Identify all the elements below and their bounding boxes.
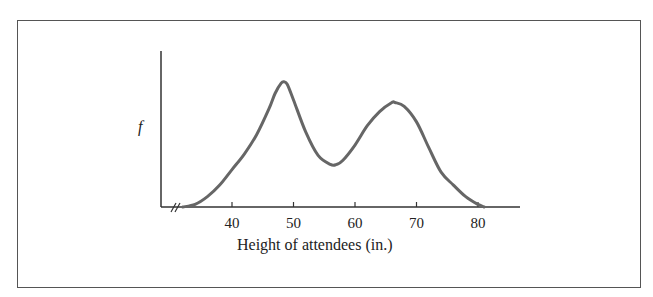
- x-tick-label: 70: [409, 215, 424, 232]
- x-tick-label: 60: [348, 215, 363, 232]
- y-axis-title: f: [138, 118, 142, 136]
- frequency-curve: [183, 82, 484, 207]
- x-tick-label: 40: [225, 215, 240, 232]
- x-tick-label: 80: [471, 215, 486, 232]
- x-tick-label: 50: [286, 215, 301, 232]
- x-axis-title: Height of attendees (in.): [237, 236, 393, 254]
